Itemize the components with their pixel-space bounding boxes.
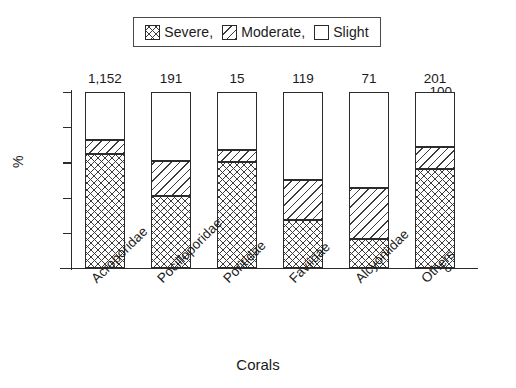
y-axis-tick [63, 92, 72, 93]
y-axis-tick [63, 268, 72, 269]
bar-faviidae: 119 [283, 92, 323, 268]
bar-segment-moderate [151, 161, 191, 196]
x-axis-title: Corals [0, 356, 516, 373]
bar-segment-slight [283, 92, 323, 180]
cross-hatch-swatch-icon [145, 25, 160, 40]
bar-alcyoniidae: 71 [349, 92, 389, 268]
y-axis-title: % [10, 156, 26, 168]
y-axis-tick [63, 233, 72, 234]
legend-item-moderate: Moderate, [222, 25, 305, 40]
diagonal-hatch-swatch-icon [222, 25, 237, 40]
bar-segment-moderate [85, 140, 125, 154]
bar-segment-moderate [415, 147, 455, 170]
stacked-bar-chart: Severe, Moderate, Slight % Corals 020406… [0, 0, 516, 388]
bar-others: 201 [415, 92, 455, 268]
legend-item-severe: Severe, [145, 25, 213, 40]
bar-poritidae: 15 [217, 92, 257, 268]
legend-label-slight: Slight [333, 25, 369, 39]
legend-label-moderate: Moderate, [241, 25, 305, 39]
y-axis-tick [63, 162, 72, 163]
y-axis-tick [63, 127, 72, 128]
bar-segment-slight [415, 92, 455, 147]
chart-legend: Severe, Moderate, Slight [133, 17, 381, 47]
bar-segment-moderate [283, 180, 323, 220]
bar-segment-slight [151, 92, 191, 161]
bar-pocilloporidae: 191 [151, 92, 191, 268]
bar-count-label: 201 [390, 72, 480, 86]
bar-segment-slight [349, 92, 389, 188]
bar-segment-moderate [349, 188, 389, 239]
legend-item-slight: Slight [314, 25, 369, 40]
bar-acroporidae: 1,152 [85, 92, 125, 268]
legend-label-severe: Severe, [164, 25, 213, 39]
bar-segment-moderate [217, 150, 257, 162]
y-axis-tick [63, 198, 72, 199]
empty-swatch-icon [314, 25, 329, 40]
bar-segment-slight [217, 92, 257, 150]
bar-segment-slight [85, 92, 125, 140]
x-axis-line [60, 268, 478, 269]
